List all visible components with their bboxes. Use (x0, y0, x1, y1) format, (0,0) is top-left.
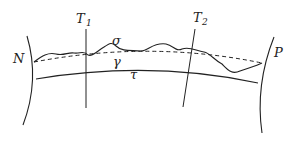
label-t1-subscript: 1 (86, 18, 92, 28)
label-t2-subscript: 2 (201, 17, 208, 27)
diagram-canvas: N P T 1 T 2 σ γ τ (0, 0, 288, 141)
left-boundary-curve (23, 36, 33, 125)
sigma-wavy-curve (34, 43, 262, 72)
label-p: P (273, 45, 283, 60)
t2-transversal (183, 29, 195, 107)
label-gamma: γ (113, 54, 121, 69)
label-sigma: σ (112, 33, 122, 48)
label-n: N (12, 51, 25, 66)
tau-curve (36, 70, 258, 83)
right-boundary-curve (260, 37, 274, 133)
label-tau: τ (130, 67, 138, 82)
label-t1: T (76, 11, 86, 26)
